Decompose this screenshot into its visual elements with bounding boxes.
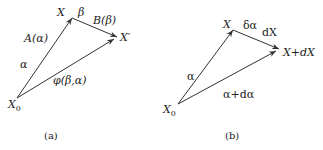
- point-label-x-prime: X′: [119, 31, 131, 44]
- point-label-x0: X0: [7, 98, 21, 113]
- edge-label-alpha: α: [187, 70, 195, 83]
- arrow-origin-to-end: [17, 39, 114, 98]
- panel-b: X δα dX X+dX α α+dα X0 (b): [162, 18, 316, 141]
- vector-diagram: X β B(β) X′ A(α) α φ(β,α) X0 (a) X δα dX…: [0, 0, 323, 150]
- edge-label-alpha-plus-dalpha: α+dα: [223, 88, 255, 101]
- edge-label-beta: β: [77, 6, 84, 19]
- caption-a: (a): [44, 130, 58, 141]
- edge-label-phi: φ(β,α): [53, 74, 87, 87]
- panel-a: X β B(β) X′ A(α) α φ(β,α) X0 (a): [7, 6, 131, 141]
- point-label-x-plus-dx: X+dX: [282, 46, 316, 59]
- edge-label-b-beta: B(β): [92, 14, 116, 27]
- edge-label-delta-alpha: δα: [243, 19, 258, 32]
- point-label-x0: X0: [162, 103, 176, 118]
- edge-label-dx: dX: [262, 26, 277, 39]
- point-label-x: X: [222, 18, 232, 31]
- caption-b: (b): [225, 130, 239, 141]
- point-label-x: X: [56, 6, 66, 19]
- edge-label-a-alpha: A(α): [23, 32, 48, 45]
- edge-label-alpha: α: [20, 58, 28, 71]
